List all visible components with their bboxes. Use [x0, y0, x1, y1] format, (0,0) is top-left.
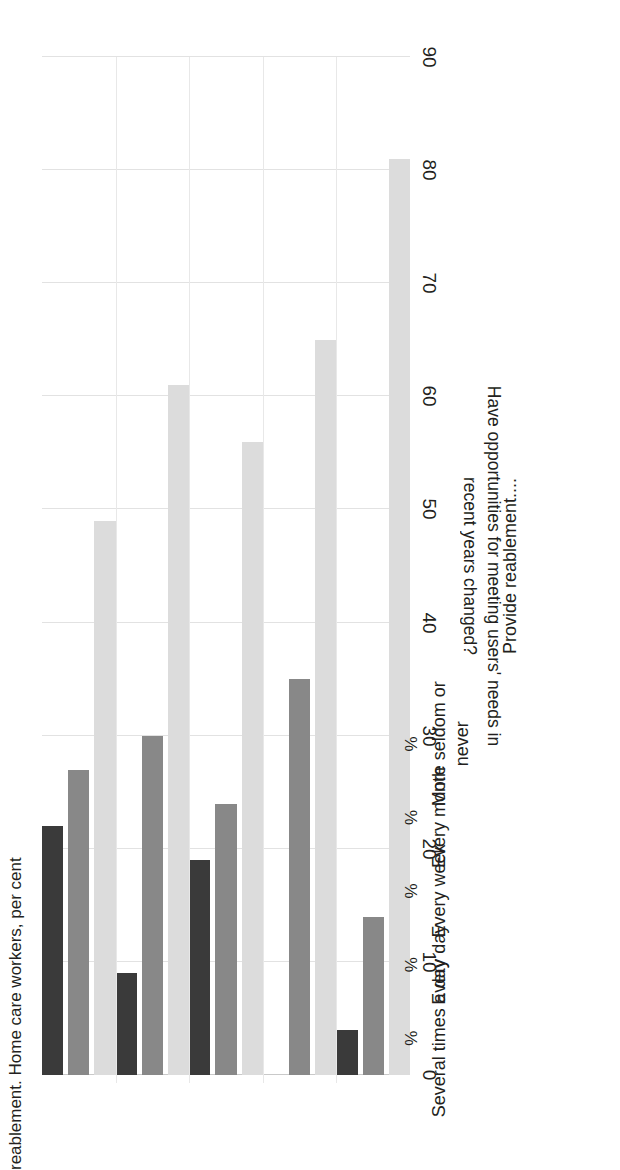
bar-series-dark [116, 973, 137, 1075]
group-separator [336, 57, 337, 1083]
bar-series-dark [42, 826, 63, 1075]
bar-group [336, 57, 410, 1075]
bar-series-medium [142, 736, 163, 1075]
bar-group [263, 57, 337, 1075]
unit-marker: % [402, 1031, 422, 1046]
bar-series-light [94, 521, 115, 1075]
group-separator [189, 57, 190, 1083]
bar-series-light [168, 385, 189, 1075]
bar-series-medium [68, 770, 89, 1075]
bar-series-light [315, 340, 336, 1075]
tick-label-70: 70 [418, 273, 440, 294]
bar-series-medium [289, 679, 310, 1075]
bar-series-medium [215, 804, 236, 1075]
bar-series-light [242, 442, 263, 1075]
chart-canvas: reablement. Home care workers, per cent … [0, 0, 620, 1170]
bar-group [42, 57, 116, 1075]
unit-marker: % [402, 883, 422, 898]
unit-marker: % [402, 957, 422, 972]
tick-label-90: 90 [418, 46, 440, 67]
tick-label-60: 60 [418, 386, 440, 407]
group-separator [263, 57, 264, 1083]
chart-title: reablement. Home care workers, per cent [6, 0, 26, 1170]
bar-group [116, 57, 190, 1075]
tick-label-40: 40 [418, 612, 440, 633]
value-axis-title-line2: recent years changed? [458, 57, 482, 1075]
bar-series-medium [363, 917, 384, 1075]
unit-marker: % [402, 736, 422, 751]
unit-marker: % [402, 810, 422, 825]
tick-label-50: 50 [418, 499, 440, 520]
bar-series-dark [189, 860, 210, 1075]
category-axis-title: Provide reablement.... [500, 57, 521, 1075]
tick-label-80: 80 [418, 160, 440, 181]
bar-series-dark [336, 1030, 357, 1075]
bar-chart-figure: reablement. Home care workers, per cent … [0, 0, 620, 1170]
category-label: More seldom or never [428, 644, 475, 844]
plot-area [42, 57, 410, 1075]
bar-group [189, 57, 263, 1075]
bar-series-light [389, 159, 410, 1075]
value-axis-title: Have opportunities for meeting users' ne… [458, 57, 505, 1075]
group-separator [116, 57, 117, 1083]
